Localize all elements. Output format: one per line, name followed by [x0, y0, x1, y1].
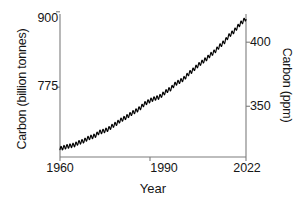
y-axis-right-title: Carbon (ppm): [280, 10, 294, 160]
y-axis-left-tick-900: 900: [10, 11, 58, 25]
y-axis-right-tick-350: 350: [250, 99, 298, 113]
x-axis-tick-2022: 2022: [220, 161, 274, 175]
keeling-curve-figure: Carbon (billion tonnes) Carbon (ppm) Yea…: [0, 0, 302, 204]
y-axis-left-tick-775: 775: [10, 79, 58, 93]
x-axis-title: Year: [60, 181, 246, 196]
x-axis-tick-1960: 1960: [33, 161, 87, 175]
x-axis-tick-1990: 1990: [137, 161, 191, 175]
axis-spines: [60, 14, 246, 157]
y-axis-right-tick-400: 400: [250, 35, 298, 49]
co2-data-line: [60, 18, 246, 150]
